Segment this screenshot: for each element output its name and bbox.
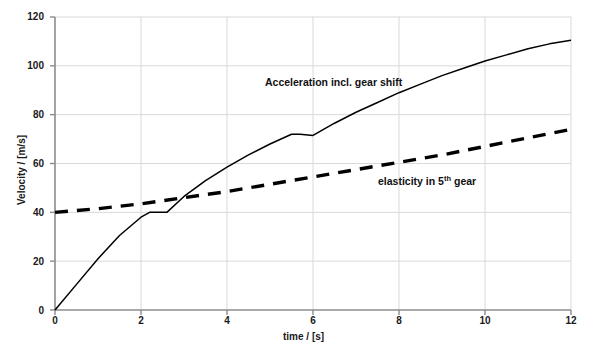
y-tick-label-0: 0 <box>22 305 44 316</box>
ordinal-suffix: th <box>444 174 451 183</box>
y-tick-label-80: 80 <box>22 109 44 120</box>
chart-plot-area <box>0 0 591 351</box>
x-tick-label-2: 2 <box>131 315 151 326</box>
x-tick-label-12: 12 <box>561 315 581 326</box>
y-tick-label-100: 100 <box>22 60 44 71</box>
axis-tick-marks <box>50 17 571 315</box>
series-label-elasticity: elasticity in 5th gear <box>378 175 476 187</box>
x-tick-label-8: 8 <box>389 315 409 326</box>
series-label-acceleration: Acceleration incl. gear shift <box>265 76 402 88</box>
y-tick-label-120: 120 <box>22 11 44 22</box>
y-tick-label-20: 20 <box>22 256 44 267</box>
x-axis-title: time / [s] <box>283 331 324 342</box>
x-tick-label-0: 0 <box>45 315 65 326</box>
x-tick-label-4: 4 <box>217 315 237 326</box>
y-axis-title: Velocity / [m/s] <box>16 135 27 205</box>
y-tick-label-40: 40 <box>22 207 44 218</box>
velocity-time-chart: 120 100 80 60 40 20 0 0 2 4 6 8 10 12 Ve… <box>0 0 591 351</box>
x-tick-label-10: 10 <box>475 315 495 326</box>
x-tick-label-6: 6 <box>303 315 323 326</box>
